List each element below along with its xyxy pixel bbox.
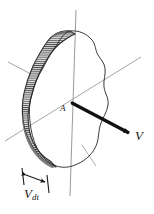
swept-volume-band bbox=[22, 31, 75, 168]
dimension-tick-right bbox=[47, 175, 49, 193]
thickness-label: Vdt bbox=[24, 187, 39, 202]
thickness-label-main: V bbox=[24, 186, 32, 201]
dimension-tick-left bbox=[22, 168, 24, 185]
area-center-point bbox=[71, 102, 74, 105]
velocity-label: V bbox=[135, 129, 143, 142]
dimension-double-arrow bbox=[26, 175, 45, 182]
area-label: A bbox=[60, 104, 66, 113]
oblique-axis-stub-line bbox=[8, 62, 31, 74]
figure-canvas bbox=[0, 0, 154, 214]
thickness-label-subscript: dt bbox=[32, 192, 39, 202]
oblique-axis-lower-stub-line bbox=[82, 145, 96, 166]
physics-swept-volume-figure: A V Vdt bbox=[0, 0, 154, 214]
velocity-arrow-line bbox=[72, 103, 129, 133]
